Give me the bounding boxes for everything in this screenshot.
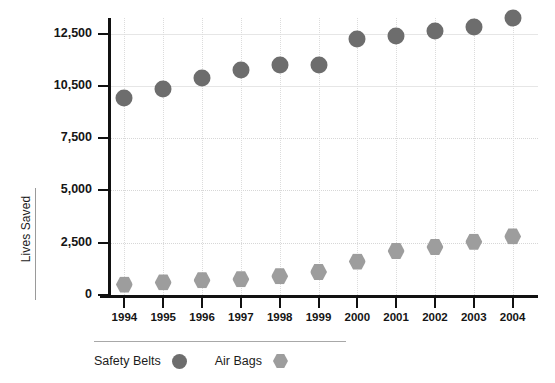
data-point-safety-belts (271, 57, 288, 74)
circle-marker-icon (172, 354, 187, 369)
data-point-safety-belts (388, 28, 405, 45)
x-axis-tick (356, 298, 358, 308)
x-axis-tick (512, 298, 514, 308)
data-point-safety-belts (465, 19, 482, 36)
y-axis-tick (98, 33, 110, 35)
lives-saved-scatter-chart: Lives Saved Safety BeltsAir Bags 02,5005… (0, 0, 555, 383)
x-axis-tick (201, 298, 203, 308)
hexagon-marker-icon (273, 354, 288, 369)
y-axis-tick-label-text: 0 (30, 287, 92, 301)
x-axis-tick (434, 298, 436, 308)
legend-item-label: Air Bags (215, 354, 262, 368)
data-point-safety-belts (426, 23, 443, 40)
data-point-safety-belts (155, 81, 172, 98)
y-axis-tick (98, 294, 110, 296)
x-axis-tick (395, 298, 397, 308)
x-axis-tick (279, 298, 281, 308)
gridline-vertical (163, 18, 165, 295)
data-point-safety-belts (116, 90, 133, 107)
x-axis-tick (162, 298, 164, 308)
y-axis-tick-label-text: 10,500 (30, 78, 92, 92)
y-axis-tick-label-text: 5,000 (30, 182, 92, 196)
data-point-safety-belts (194, 70, 211, 87)
data-point-air-bags (426, 238, 443, 255)
x-axis-tick (473, 298, 475, 308)
data-point-air-bags (194, 272, 211, 289)
data-point-safety-belts (504, 10, 521, 27)
gridline-vertical (474, 18, 476, 295)
plot-area (111, 18, 538, 295)
chart-legend: Safety BeltsAir Bags (94, 349, 374, 373)
x-axis-tick (318, 298, 320, 308)
data-point-air-bags (271, 268, 288, 285)
gridline-vertical (241, 18, 243, 295)
y-axis-tick (98, 189, 110, 191)
x-axis-tick (240, 298, 242, 308)
legend-divider (94, 341, 346, 342)
data-point-air-bags (465, 233, 482, 250)
x-axis-tick (123, 298, 125, 308)
gridline-vertical (513, 18, 515, 295)
y-axis-tick-label-text: 12,500 (30, 26, 92, 40)
data-point-air-bags (155, 274, 172, 291)
y-axis-tick (98, 242, 110, 244)
data-point-air-bags (232, 271, 249, 288)
data-point-safety-belts (232, 62, 249, 79)
data-point-air-bags (349, 253, 366, 270)
data-point-safety-belts (310, 57, 327, 74)
legend-item-safety-belts[interactable]: Safety Belts (94, 354, 187, 369)
y-axis-tick (98, 85, 110, 87)
data-point-air-bags (310, 264, 327, 281)
legend-item-air-bags[interactable]: Air Bags (215, 354, 288, 369)
legend-item-label: Safety Belts (94, 354, 161, 368)
y-axis-tick-label-text: 7,500 (30, 130, 92, 144)
y-axis-tick-label-text: 2,500 (30, 235, 92, 249)
gridline-vertical (357, 18, 359, 295)
gridline-vertical (124, 18, 126, 295)
data-point-air-bags (116, 276, 133, 293)
data-point-safety-belts (349, 30, 366, 47)
gridline-vertical (202, 18, 204, 295)
y-axis-tick (98, 137, 110, 139)
data-point-air-bags (388, 243, 405, 260)
x-axis-tick-label: 2004 (485, 311, 541, 323)
